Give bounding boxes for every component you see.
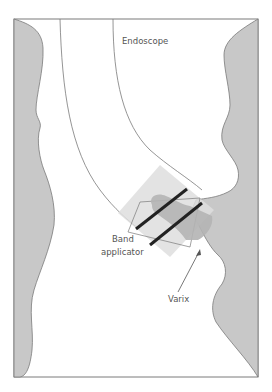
band-ligation-diagram: Endoscope Band applicator Varix — [0, 0, 272, 392]
label-band: Band — [112, 234, 134, 244]
label-endoscope: Endoscope — [122, 36, 168, 46]
label-applicator: applicator — [101, 247, 144, 257]
label-varix: Varix — [168, 294, 189, 304]
